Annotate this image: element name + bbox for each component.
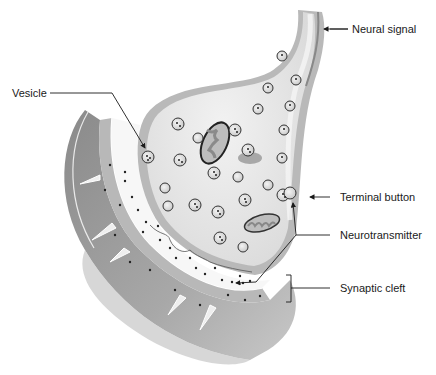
synapse-diagram: Neural signal Vesicle Terminal button Ne… — [0, 0, 436, 375]
label-vesicle: Vesicle — [12, 87, 47, 99]
label-neurotransmitter: Neurotransmitter — [340, 229, 422, 241]
label-terminal-button: Terminal button — [340, 191, 415, 203]
label-neural-signal: Neural signal — [352, 23, 416, 35]
neurotransmitter-leader — [293, 203, 330, 235]
synapse-illustration — [0, 0, 436, 375]
label-synaptic-cleft: Synaptic cleft — [340, 282, 405, 294]
